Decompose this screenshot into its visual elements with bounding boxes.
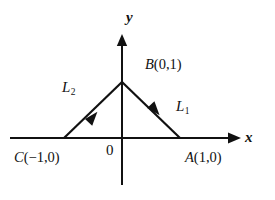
point-coords-b: (0,1) [154, 56, 182, 72]
x-axis-label: x [245, 130, 253, 145]
point-label-c: C(−1,0) [14, 150, 60, 165]
point-letter-b: B [145, 56, 154, 72]
segment-letter-l2: L [62, 79, 70, 95]
segment-subscript-l1: 1 [185, 106, 190, 116]
segment-L2-arrowhead-icon [85, 112, 97, 126]
point-coords-a: (1,0) [194, 149, 222, 165]
point-label-b: B(0,1) [145, 57, 182, 72]
point-label-a: A(1,0) [185, 150, 222, 165]
y-axis-label: y [126, 10, 133, 25]
x-axis-arrowhead-icon [228, 133, 241, 144]
point-coords-c: (−1,0) [24, 149, 60, 165]
origin-label: 0 [106, 143, 114, 158]
segment-label-l1: L1 [176, 99, 189, 114]
segment-letter-l1: L [176, 98, 184, 114]
y-axis-arrowhead-icon [117, 34, 127, 46]
point-letter-a: A [185, 149, 194, 165]
math-figure-coordinate-plane: y x B(0,1) L2 L1 C(−1,0) A(1,0) 0 [0, 0, 275, 200]
figure-canvas [0, 0, 275, 200]
segment-subscript-l2: 2 [71, 87, 76, 97]
point-letter-c: C [14, 149, 24, 165]
segment-label-l2: L2 [62, 80, 75, 95]
